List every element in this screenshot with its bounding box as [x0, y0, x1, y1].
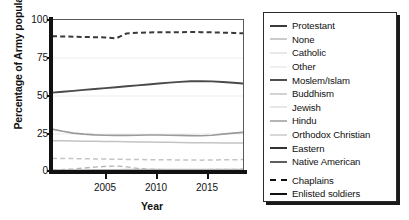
x-axis-tick-labels: 2005 2010 2015: [0, 176, 258, 196]
legend-swatch-line-icon: [270, 61, 287, 72]
legend-item-protestant[interactable]: Protestant: [270, 19, 391, 33]
legend-label: Hindu: [292, 115, 317, 126]
x-axis-line: [49, 170, 247, 174]
legend-swatch-line-icon: [270, 129, 287, 140]
legend-label: None: [292, 34, 315, 45]
legend-item-other[interactable]: Other: [270, 60, 391, 74]
legend-item-catholic[interactable]: Catholic: [270, 46, 391, 60]
plot-area: [52, 19, 244, 171]
legend-item-chaplains[interactable]: Chaplains: [270, 174, 391, 188]
y-tick-25: 25: [18, 128, 48, 139]
legend-label: Eastern: [292, 143, 324, 154]
series-line-enlisted-soldiers-none: [52, 129, 244, 136]
legend-item-orthodox-christian[interactable]: Orthodox Christian: [270, 128, 391, 142]
legend-label: Native American: [292, 156, 360, 167]
legend-swatch-line-icon: [270, 75, 287, 86]
legend-swatch-line-icon: [270, 102, 287, 113]
legend-label: Orthodox Christian: [292, 129, 370, 140]
y-tick-100: 100: [18, 14, 48, 25]
legend-label: Moslem/Islam: [292, 75, 350, 86]
legend-swatch-line-icon: [270, 143, 287, 154]
legend-swatch-line-icon: [270, 188, 287, 199]
legend-item-moslem-islam[interactable]: Moslem/Islam: [270, 73, 391, 87]
series-layer: [52, 20, 244, 171]
legend-swatch-line-icon: [270, 88, 287, 99]
legend-item-jewish[interactable]: Jewish: [270, 101, 391, 115]
legend-label: Protestant: [292, 20, 335, 31]
x-tick-2005: 2005: [94, 182, 116, 193]
legend-item-enlisted-soldiers[interactable]: Enlisted soldiers: [270, 187, 391, 201]
legend-label: Catholic: [292, 47, 326, 58]
legend-item-native-american[interactable]: Native American: [270, 155, 391, 169]
legend-label: Buddhism: [292, 88, 334, 99]
legend-box: ProtestantNoneCatholicOtherMoslem/IslamB…: [263, 12, 397, 202]
legend-swatch-line-icon: [270, 115, 287, 126]
y-tick-0: 0: [18, 165, 48, 176]
series-line-enlisted-soldiers-protestant: [52, 81, 244, 93]
legend-label: Enlisted soldiers: [292, 188, 360, 199]
chart-root: Percentage of Army population 100 75 50 …: [0, 0, 409, 220]
legend-label: Jewish: [292, 102, 321, 113]
y-axis-line: [49, 17, 53, 174]
x-tick-2015: 2015: [196, 182, 218, 193]
x-axis-title: Year: [52, 200, 252, 212]
legend-item-buddhism[interactable]: Buddhism: [270, 87, 391, 101]
legend-swatch-line-icon: [270, 34, 287, 45]
legend-swatch-line-icon: [270, 175, 287, 186]
legend-item-none[interactable]: None: [270, 33, 391, 47]
series-line-chaplains-protestant: [52, 32, 244, 38]
series-line-enlisted-soldiers-catholic: [52, 141, 244, 143]
legend-swatch-line-icon: [270, 47, 287, 58]
legend-item-eastern[interactable]: Eastern: [270, 141, 391, 155]
series-line-chaplains-catholic: [52, 158, 244, 160]
y-tick-50: 50: [18, 90, 48, 101]
plot-panel: Percentage of Army population 100 75 50 …: [0, 0, 258, 220]
legend-label: Chaplains: [292, 175, 334, 186]
y-tick-75: 75: [18, 52, 48, 63]
legend-items: ProtestantNoneCatholicOtherMoslem/IslamB…: [264, 13, 396, 205]
legend-label: Other: [292, 61, 316, 72]
x-tick-2010: 2010: [145, 182, 167, 193]
legend-swatch-line-icon: [270, 20, 287, 31]
legend-swatch-line-icon: [270, 156, 287, 167]
legend-item-hindu[interactable]: Hindu: [270, 114, 391, 128]
